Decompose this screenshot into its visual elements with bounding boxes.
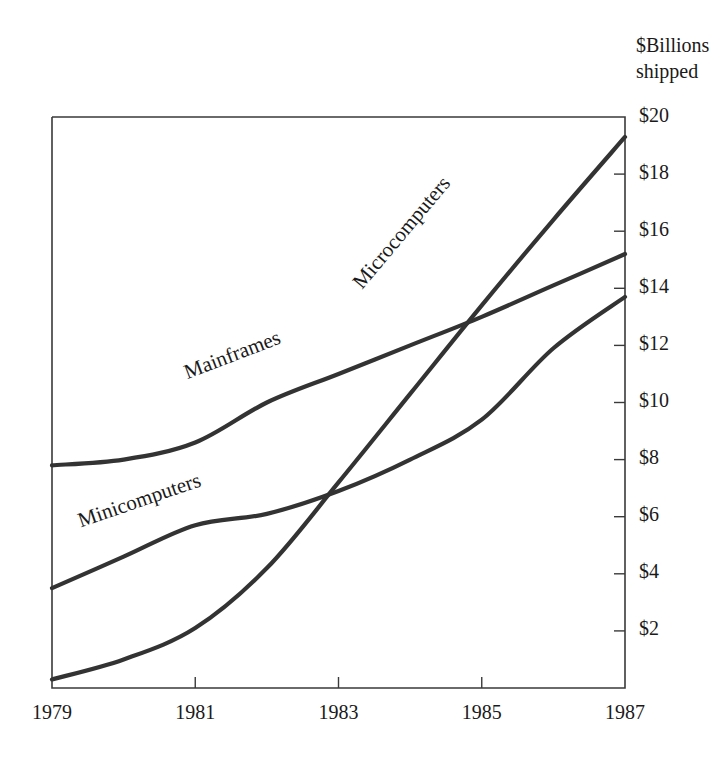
plot-frame-border (52, 117, 625, 688)
y-tick-label: $16 (639, 218, 669, 240)
x-tick-label: 1987 (605, 701, 645, 723)
x-tick-label: 1981 (175, 701, 215, 723)
y-axis-title: $Billionsshipped (636, 34, 710, 83)
chart-container: $2$4$6$8$10$12$14$16$18$20 1979198119831… (0, 0, 726, 762)
x-tick-label: 1985 (462, 701, 502, 723)
y-tick-label: $20 (639, 104, 669, 126)
series-line-microcomputers (52, 137, 625, 679)
y-tick-label: $2 (639, 617, 659, 639)
series-line-minicomputers (52, 297, 625, 588)
y-tick-label: $10 (639, 389, 669, 411)
x-tick-label: 1983 (319, 701, 359, 723)
x-axis-tick-labels: 19791981198319851987 (32, 701, 645, 723)
y-tick-label: $14 (639, 275, 669, 297)
y-axis-tick-labels: $2$4$6$8$10$12$14$16$18$20 (639, 104, 669, 640)
line-chart: $2$4$6$8$10$12$14$16$18$20 1979198119831… (0, 0, 726, 762)
y-tick-label: $8 (639, 446, 659, 468)
y-tick-label: $18 (639, 161, 669, 183)
x-axis-ticks (195, 677, 482, 688)
y-axis-ticks (614, 174, 625, 631)
x-tick-label: 1979 (32, 701, 72, 723)
series-label-mainframes: Mainframes (180, 325, 283, 384)
y-tick-label: $12 (639, 332, 669, 354)
axis-title-line: shipped (636, 60, 698, 83)
axis-title-line: $Billions (636, 34, 710, 56)
series-lines (52, 137, 625, 679)
plot-frame (52, 117, 625, 688)
y-tick-label: $6 (639, 503, 659, 525)
y-tick-label: $4 (639, 560, 659, 582)
series-label-minicomputers: Minicomputers (75, 468, 204, 532)
series-label-microcomputers: Microcomputers (347, 171, 455, 293)
